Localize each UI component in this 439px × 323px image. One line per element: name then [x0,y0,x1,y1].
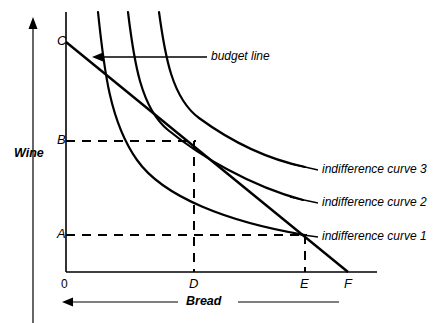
x-axis-label-bread: Bread [186,295,221,308]
axis-label-e: E [300,277,309,290]
axis-label-f: F [344,277,352,290]
wine-arrow-head [29,17,38,29]
indifference-curve-figure: C B A 0 D E F Wine Bread budget line ind… [0,0,439,323]
axis-label-a: A [57,227,66,240]
axis-label-d: D [189,277,198,290]
indifference-curve-3-label: indifference curve 3 [322,163,427,175]
indifference-curve-1-label: indifference curve 1 [322,230,427,242]
indifference-curve-3-leader [292,164,318,170]
dashed-guides-group [66,141,307,272]
axis-label-b: B [57,133,66,146]
axis-label-origin: 0 [61,278,68,290]
budget-line-leader-arrow [92,53,103,62]
indifference-curve-2-leader [290,197,318,203]
indifference-curve-3 [159,12,305,167]
y-axis-label-wine: Wine [14,147,44,160]
bread-arrow-head [62,298,73,307]
indifference-curve-2 [128,12,303,200]
indifference-curve-2-label: indifference curve 2 [322,196,427,208]
axis-name-arrows [29,17,340,323]
budget-line-label: budget line [211,50,270,62]
indifference-curve-1 [98,12,305,235]
leader-lines-group [92,53,318,238]
axis-label-c: C [57,34,66,47]
